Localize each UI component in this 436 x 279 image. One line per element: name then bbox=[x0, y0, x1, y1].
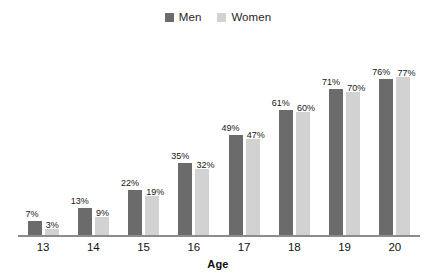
chart-legend: Men Women bbox=[0, 12, 436, 24]
bar-women: 9% bbox=[95, 217, 109, 235]
bar-men: 61% bbox=[279, 110, 293, 235]
bar-groups: 7%3%13%9%22%19%35%32%49%47%61%60%71%70%7… bbox=[18, 30, 420, 235]
bar-rect-women bbox=[195, 169, 209, 235]
x-tick-label: 14 bbox=[68, 240, 118, 255]
bar-rect-men bbox=[329, 89, 343, 235]
bar-women: 70% bbox=[346, 92, 360, 236]
x-tick-label: 20 bbox=[370, 240, 420, 255]
bar-value-label-men: 71% bbox=[322, 78, 340, 87]
bar-rect-men bbox=[128, 190, 142, 235]
bar-group: 76%77% bbox=[370, 30, 420, 235]
x-tick-label: 19 bbox=[320, 240, 370, 255]
bar-value-label-men: 49% bbox=[222, 124, 240, 133]
bar-group: 35%32% bbox=[169, 30, 219, 235]
plot-area: 7%3%13%9%22%19%35%32%49%47%61%60%71%70%7… bbox=[18, 30, 420, 235]
bar-men: 22% bbox=[128, 190, 142, 235]
bar-rect-men bbox=[229, 135, 243, 235]
bar-rect-women bbox=[95, 217, 109, 235]
bar-rect-women bbox=[296, 112, 310, 235]
x-axis-title: Age bbox=[0, 258, 436, 270]
bar-rect-men bbox=[28, 221, 42, 235]
bar-men: 71% bbox=[329, 89, 343, 235]
bar-men: 13% bbox=[78, 208, 92, 235]
legend-label-men: Men bbox=[179, 12, 202, 24]
bar-women: 32% bbox=[195, 169, 209, 235]
bar-value-label-women: 19% bbox=[146, 188, 164, 197]
bar-value-label-men: 13% bbox=[71, 197, 89, 206]
bar-rect-women bbox=[396, 77, 410, 235]
bar-women: 77% bbox=[396, 77, 410, 235]
bar-rect-women bbox=[246, 139, 260, 235]
bar-women: 19% bbox=[145, 196, 159, 235]
bar-value-label-men: 7% bbox=[26, 210, 39, 219]
bar-value-label-men: 61% bbox=[272, 99, 290, 108]
bar-rect-men bbox=[178, 163, 192, 235]
bar-group: 71%70% bbox=[320, 30, 370, 235]
x-tick-label: 15 bbox=[119, 240, 169, 255]
x-tick-label: 13 bbox=[18, 240, 68, 255]
legend-swatch-women-icon bbox=[217, 13, 226, 22]
bar-value-label-women: 47% bbox=[247, 131, 265, 140]
x-axis-tick-labels: 1314151617181920 bbox=[18, 240, 420, 255]
bar-value-label-women: 3% bbox=[46, 221, 59, 230]
legend-item-men: Men bbox=[165, 12, 202, 24]
bar-men: 7% bbox=[28, 221, 42, 235]
x-tick-label: 18 bbox=[269, 240, 319, 255]
bar-value-label-men: 76% bbox=[372, 68, 390, 77]
bar-men: 35% bbox=[178, 163, 192, 235]
legend-item-women: Women bbox=[217, 12, 271, 24]
bar-rect-men bbox=[78, 208, 92, 235]
bar-value-label-women: 60% bbox=[297, 104, 315, 113]
bar-women: 60% bbox=[296, 112, 310, 235]
legend-swatch-men-icon bbox=[165, 13, 174, 22]
bar-rect-women bbox=[145, 196, 159, 235]
bar-group: 49%47% bbox=[219, 30, 269, 235]
bar-men: 49% bbox=[229, 135, 243, 235]
x-tick-label: 16 bbox=[169, 240, 219, 255]
bar-value-label-women: 77% bbox=[397, 69, 415, 78]
x-axis-line bbox=[18, 235, 420, 237]
bar-value-label-men: 35% bbox=[171, 152, 189, 161]
x-tick-label: 17 bbox=[219, 240, 269, 255]
bar-group: 7%3% bbox=[18, 30, 68, 235]
bar-group: 22%19% bbox=[119, 30, 169, 235]
bar-group: 61%60% bbox=[269, 30, 319, 235]
bar-group: 13%9% bbox=[68, 30, 118, 235]
bar-value-label-men: 22% bbox=[121, 179, 139, 188]
bar-rect-men bbox=[379, 79, 393, 235]
bar-rect-women bbox=[346, 92, 360, 236]
bar-chart: Men Women 7%3%13%9%22%19%35%32%49%47%61%… bbox=[0, 0, 436, 279]
bar-value-label-women: 32% bbox=[196, 161, 214, 170]
bar-women: 47% bbox=[246, 139, 260, 235]
legend-label-women: Women bbox=[231, 12, 271, 24]
bar-value-label-women: 9% bbox=[96, 209, 109, 218]
bar-value-label-women: 70% bbox=[347, 84, 365, 93]
bar-rect-men bbox=[279, 110, 293, 235]
bar-men: 76% bbox=[379, 79, 393, 235]
